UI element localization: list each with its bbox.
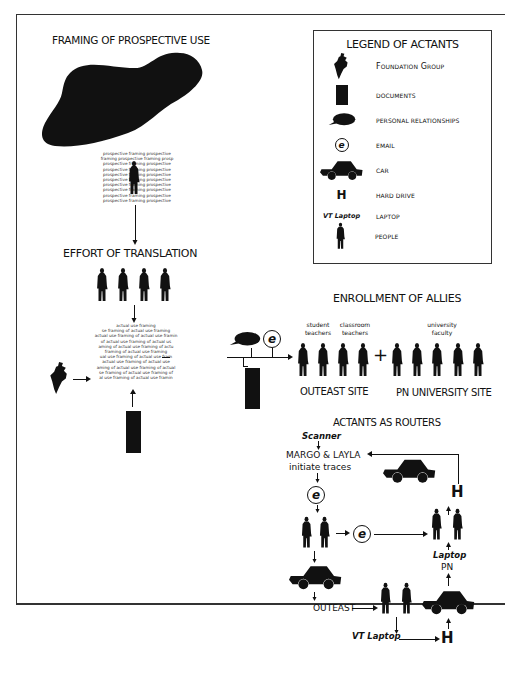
email-icon: e [314,134,369,156]
arrow-right-icon [435,636,440,642]
arrow-right-icon [288,354,293,360]
laptop-label: Laptop [433,550,466,560]
return-arrow-line [370,454,459,455]
arrow-line [399,639,436,640]
hard-drive-glyph: H [336,189,346,201]
connector-line [162,357,170,358]
connector-line [251,348,252,357]
speech-bubble-icon [229,331,261,348]
document-icon [126,411,141,453]
arrow-down-icon [132,240,138,245]
foundation-group-icon [50,362,70,395]
legend-item-hard-drive: H HARD DRIVE [314,184,491,206]
car-icon [314,159,369,181]
person-icon [451,506,464,543]
document-icon [245,368,260,409]
initiate-traces-label: initiate traces [289,462,351,472]
arrow-down-icon [315,479,320,483]
pn-university-site-label: PN UNIVERSITY SITE [396,387,492,398]
arrow-line [73,379,87,380]
arrow-line [135,205,136,241]
connector-line [243,366,248,367]
person-icon [400,580,413,617]
email-glyph: e [335,138,349,152]
return-arrow-line [458,454,459,484]
legend-item-car: CAR [314,159,491,181]
hard-drive-icon: H [441,631,454,646]
person-icon [300,514,313,551]
text-line: al use framing of actual use framin [88,375,184,380]
legend-label: PEOPLE [375,233,398,240]
person-icon [137,265,151,305]
person-icon [430,340,444,380]
legend-item-personal-relationships: PERSONAL RELATIONSHIPS [314,109,491,131]
enrollment-title: ENROLLMENT OF ALLIES [333,292,461,305]
legend-item-people: PEOPLE [313,222,490,250]
email-icon: e [263,330,281,348]
pn-label: PN [441,562,453,572]
label-line: faculty [420,329,464,337]
arrow-down-icon [312,597,317,601]
legend-title: LEGEND OF ACTANTS [314,38,491,51]
label-line: teachers [300,329,336,337]
arrow-right-icon [86,376,91,382]
car-icon [289,563,343,591]
arrow-line [374,534,424,535]
arrow-line [396,617,397,631]
arrow-right-icon [345,530,350,536]
arrow-right-icon [373,605,378,611]
routers-title: ACTANTS AS ROUTERS [333,417,441,428]
label-line: classroom [333,321,377,329]
person-icon [336,340,350,380]
text-line: prospective framing prospective [99,198,175,203]
hard-drive-icon: H [451,485,464,500]
arrow-right-icon [423,531,428,537]
person-icon [430,506,443,543]
legend-label: DOCUMENTS [376,92,416,99]
laptop-glyph: VT Laptop [323,212,360,220]
speech-bubble-icon [314,109,369,131]
legend-item-documents: DOCUMENTS [314,84,491,106]
person-icon [410,340,424,380]
arrow-left-icon [367,451,372,457]
person-icon [318,514,331,551]
person-icon [127,160,141,196]
label-line: teachers [333,329,377,337]
text-line: actual use framing of actual use framin [88,333,184,338]
legend-label: HARD DRIVE [376,192,415,199]
legend-item-email: e EMAIL [314,134,491,156]
arrow-line [448,622,449,629]
person-icon [471,340,485,380]
car-icon [383,456,437,485]
timeline-arrow-line [227,357,289,358]
label-line: university [420,321,464,329]
person-icon [451,340,465,380]
person-icon [296,340,310,380]
person-icon [356,340,370,380]
plus-sign: + [373,346,388,364]
group-label-student-teachers: student teachers [300,321,336,337]
hard-drive-icon: H [314,184,369,206]
prospective-use-cloud-shape [40,48,205,153]
person-icon [316,340,330,380]
person-icon [379,580,392,617]
translation-title: EFFORT OF TRANSLATION [63,247,197,260]
scanner-label: Scanner [302,431,341,441]
text-line: actual use framing of actual use [88,359,184,364]
document-icon [314,84,369,106]
margo-layla-label: MARGO & LAYLA [286,450,361,460]
arrow-line [352,608,374,609]
legend-label: LAPTOP [376,213,400,220]
outeast-site-label: OUTEAST SITE [300,386,368,397]
outeast-label: OUTEAST [313,603,355,613]
email-icon: e [353,525,371,543]
arrow-up-icon [130,389,136,394]
translation-text-block: actual use framing se framing of actual … [88,323,184,380]
legend-label: Foundation Group [376,62,444,71]
arrow-down-icon [315,509,320,513]
vt-laptop-label: VT Laptop [352,631,401,641]
car-icon [422,588,476,616]
arrow-line [134,305,135,319]
legend-label: EMAIL [376,142,395,149]
framing-title: FRAMING OF PROSPECTIVE USE [52,34,210,46]
